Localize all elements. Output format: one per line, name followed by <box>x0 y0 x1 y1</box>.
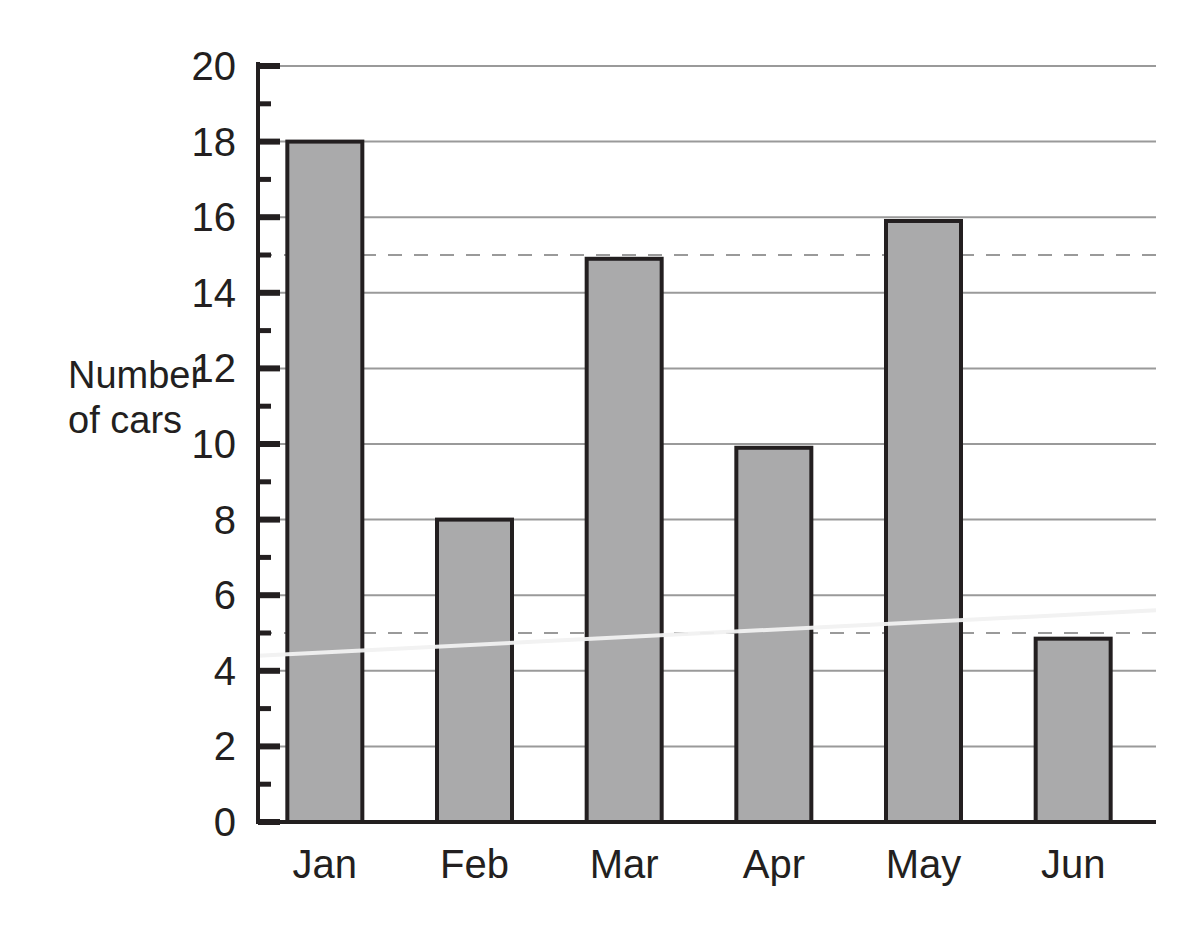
bar-may <box>886 221 961 822</box>
y-tick-label-18: 18 <box>192 120 237 164</box>
y-tick-label-20: 20 <box>192 44 237 88</box>
y-tick-label-10: 10 <box>192 422 237 466</box>
y-axis-title-line-1: Number <box>68 354 203 396</box>
bar-chart: 02468101214161820 JanFebMarAprMayJun Num… <box>0 0 1192 928</box>
y-axis-title-line-2: of cars <box>68 399 182 441</box>
y-tick-label-6: 6 <box>214 573 236 617</box>
y-tick-label-8: 8 <box>214 498 236 542</box>
x-tick-label-jun: Jun <box>1041 842 1106 886</box>
y-tick-label-2: 2 <box>214 724 236 768</box>
bar-jun <box>1036 639 1111 822</box>
bar-mar <box>587 259 662 822</box>
y-tick-label-4: 4 <box>214 649 236 693</box>
x-tick-label-apr: Apr <box>743 842 805 886</box>
x-tick-label-may: May <box>886 842 962 886</box>
y-tick-label-0: 0 <box>214 800 236 844</box>
bar-feb <box>437 520 512 822</box>
chart-canvas: 02468101214161820 JanFebMarAprMayJun Num… <box>0 0 1192 928</box>
bar-jan <box>287 142 362 822</box>
bar-apr <box>736 448 811 822</box>
y-tick-label-14: 14 <box>192 271 237 315</box>
x-tick-label-jan: Jan <box>293 842 358 886</box>
x-tick-label-feb: Feb <box>440 842 509 886</box>
y-tick-label-16: 16 <box>192 195 237 239</box>
x-tick-label-mar: Mar <box>590 842 659 886</box>
